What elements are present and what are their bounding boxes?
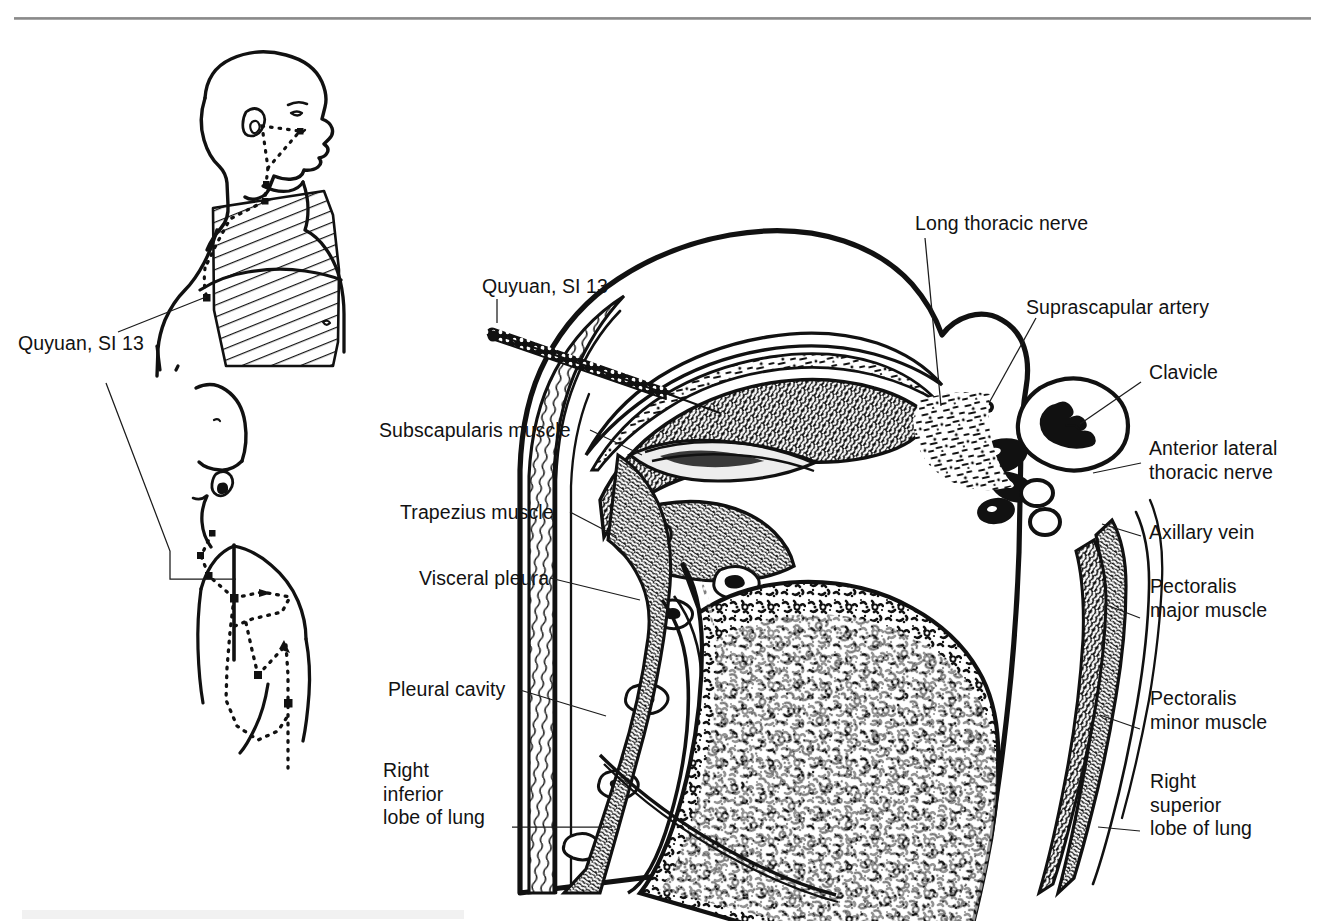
label-clavicle: Clavicle [1149,361,1218,385]
label-long-thoracic-nerve: Long thoracic nerve [915,212,1088,236]
label-right-superior-lobe-of-lung: Right superior lobe of lung [1150,770,1252,841]
panel-cross-section [488,231,1163,921]
label-pleural-cavity: Pleural cavity [388,678,505,702]
label-pectoralis-major-muscle: Pectoralis major muscle [1150,575,1267,622]
leader-quyuan-lower [106,383,236,579]
label-anterior-lateral-thoracic-nerve: Anterior lateral thoracic nerve [1149,437,1277,484]
panel-posterior-profile [106,383,310,768]
label-visceral-pleura: Visceral pleura [419,567,549,591]
panel-lateral-profile [118,52,360,380]
label-axillary-vein: Axillary vein [1149,521,1254,545]
figure-page: Quyuan, SI 13 Quyuan, SI 13 Subscapulari… [0,0,1325,921]
anatomy-artwork [0,0,1325,921]
label-trapezius-muscle: Trapezius muscle [400,501,554,525]
label-right-inferior-lobe-of-lung: Right inferior lobe of lung [383,759,485,830]
leader-right-superior-lobe [1098,827,1140,831]
label-quyuan-needle: Quyuan, SI 13 [482,275,608,299]
clavicle-bone [1018,378,1128,470]
axillary-vein-lumen [1021,480,1053,506]
label-pectoralis-minor-muscle: Pectoralis minor muscle [1150,687,1267,734]
label-suprascapular-artery: Suprascapular artery [1026,296,1209,320]
label-quyuan-upper: Quyuan, SI 13 [18,332,144,356]
label-subscapularis-muscle: Subscapularis muscle [379,419,571,443]
